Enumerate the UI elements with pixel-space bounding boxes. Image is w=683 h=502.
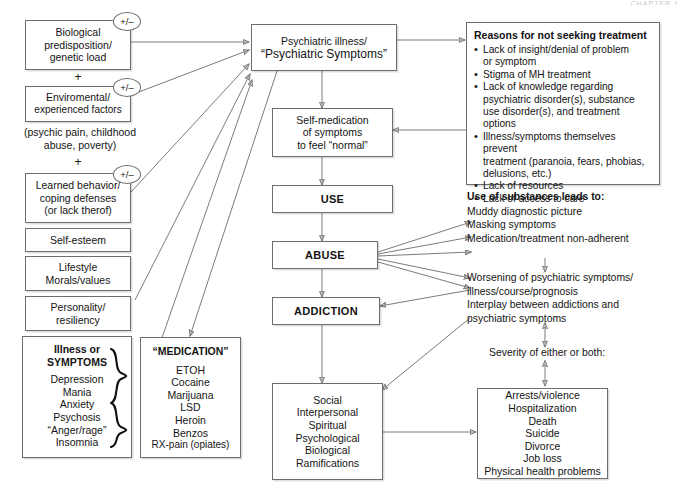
ramification-item: Psychological [295, 432, 359, 445]
substances-heading: Use of substances leads to: [467, 190, 679, 204]
node-line: Morals/values [46, 274, 111, 287]
node-biological-predisposition[interactable]: Biological predisposition/ genetic load [25, 20, 131, 70]
reason-line: psychiatric disorder(s), substance [483, 94, 652, 106]
node-ramifications[interactable]: Social Interpersonal Spiritual Psycholog… [272, 383, 383, 480]
severity-line: Severity of either or both: [489, 346, 679, 360]
node-personality-resiliency[interactable]: Personality/ resiliency [25, 296, 131, 331]
modifier-bubble-environmental: +/– [113, 78, 141, 97]
node-line: “Psychiatric Symptoms” [261, 48, 387, 61]
node-line: Biological [56, 26, 101, 39]
substances-item: Medication/treatment non-adherent [467, 232, 679, 246]
node-line: Self-esteem [50, 234, 106, 247]
node-line: genetic load [50, 51, 107, 64]
substances-item: Masking symptoms [467, 218, 679, 232]
node-line: USE [321, 193, 345, 206]
outcome-item: Suicide [525, 427, 559, 440]
reason-line: Illness/symptoms themselves prevent [483, 131, 615, 154]
medication-item: RX-pain (opiates) [152, 439, 230, 452]
reasons-list: Lack of insight/denial of problem or sym… [474, 44, 652, 205]
node-addiction[interactable]: ADDICTION [272, 297, 380, 325]
symptom-item: Depression [50, 373, 103, 386]
reason-item: Lack of knowledge regarding psychiatric … [474, 81, 652, 131]
worsening-line: illness/course/prognosis [467, 285, 679, 299]
reason-line: or symptom [483, 56, 652, 68]
medication-item: ETOH [176, 364, 205, 377]
symptom-item: “Anger/rage” [48, 424, 107, 437]
reason-item: Illness/symptoms themselves prevent trea… [474, 131, 652, 181]
symptom-item: Psychosis [53, 411, 100, 424]
panel-reasons-not-seeking-treatment[interactable]: Reasons for not seeking treatment Lack o… [466, 22, 660, 185]
symptom-item: Insomnia [56, 436, 99, 449]
node-line: Personality/ [51, 301, 106, 314]
symptoms-title-line: Illness or [54, 343, 100, 356]
node-use[interactable]: USE [272, 185, 393, 213]
ramification-item: Biological [305, 444, 350, 457]
node-medication-substances[interactable]: “MEDICATION” ETOH Cocaine Marijuana LSD … [140, 337, 241, 458]
block-substances-lead-to: Use of substances leads to: Muddy diagno… [467, 190, 679, 245]
node-line: ADDICTION [294, 305, 358, 318]
block-interplay: Interplay between addictions and psychia… [467, 298, 679, 325]
interplay-line: psychiatric symptoms [467, 312, 679, 326]
symptom-item: Anxiety [60, 398, 94, 411]
label-severity: Severity of either or both: [489, 346, 679, 360]
environment-note-line: (psychic pain, childhood [5, 126, 155, 139]
panel-title: Reasons for not seeking treatment [474, 29, 652, 42]
environment-note-line: abuse, poverty) [5, 139, 155, 152]
modifier-bubble-learned-behavior: +/– [113, 165, 141, 184]
worsening-line: Worsening of psychiatric symptoms/ [467, 271, 679, 285]
node-outcomes[interactable]: Arrests/violence Hospitalization Death S… [477, 388, 608, 479]
medication-item: Heroin [175, 414, 206, 427]
medication-title: “MEDICATION” [152, 345, 228, 358]
modifier-bubble-biological: +/– [113, 12, 141, 31]
node-line: (or lack therof) [44, 204, 112, 217]
node-psychiatric-illness[interactable]: Psychiatric illness/ “Psychiatric Sympto… [251, 24, 397, 71]
substances-item: Muddy diagnostic picture [467, 205, 679, 219]
node-line: coping defenses [40, 192, 116, 205]
environment-note: (psychic pain, childhood abuse, poverty) [5, 126, 155, 151]
node-line: Psychiatric illness/ [281, 35, 367, 48]
node-learned-behavior[interactable]: Learned behavior/ coping defenses (or la… [25, 173, 131, 223]
node-line: predisposition/ [44, 39, 112, 52]
symptom-item: Mania [63, 386, 92, 399]
node-line: ABUSE [305, 249, 345, 262]
reason-line: Stigma of MH treatment [483, 69, 591, 80]
outcome-item: Hospitalization [508, 402, 576, 415]
medication-item: LSD [180, 401, 200, 414]
node-line: of symptoms [303, 126, 363, 139]
symptoms-title-line: SYMPTOMS [47, 356, 107, 369]
reason-line: Lack of insight/denial of problem [483, 44, 629, 55]
node-line: Learned behavior/ [36, 179, 121, 192]
ramification-item: Spiritual [309, 419, 347, 432]
outcome-item: Death [528, 415, 556, 428]
reason-line: delusions, etc.) [483, 168, 652, 180]
outcome-item: Physical health problems [484, 465, 601, 478]
node-lifestyle-morals[interactable]: Lifestyle Morals/values [25, 256, 131, 291]
medication-item: Marijuana [167, 389, 213, 402]
node-line: Lifestyle [59, 261, 98, 274]
symptoms-brace [108, 348, 128, 448]
node-self-esteem[interactable]: Self-esteem [25, 228, 131, 252]
interplay-line: Interplay between addictions and [467, 298, 679, 312]
medication-item: Cocaine [171, 376, 210, 389]
plus-separator-2: + [25, 155, 131, 169]
ramification-item: Interpersonal [297, 406, 358, 419]
node-line: experienced factors [34, 104, 121, 117]
page-header-note: CHAPTER 1 [631, 0, 679, 5]
node-line: Self-medication [296, 114, 368, 127]
node-line: to feel “normal” [297, 139, 368, 152]
reason-item: Stigma of MH treatment [474, 69, 652, 81]
diagram-canvas: CHAPTER 1 [0, 0, 683, 502]
reason-line: Lack of knowledge regarding [483, 81, 613, 92]
node-abuse[interactable]: ABUSE [272, 241, 378, 269]
medication-item: Benzos [173, 427, 208, 440]
block-worsening-symptoms: Worsening of psychiatric symptoms/ illne… [467, 271, 679, 298]
outcome-item: Arrests/violence [505, 389, 580, 402]
node-line: resiliency [56, 314, 100, 327]
outcome-item: Job loss [523, 452, 562, 465]
reason-line: treatment (paranoia, fears, phobias, [483, 156, 652, 168]
ramification-item: Social [313, 394, 342, 407]
ramification-item: Ramifications [296, 457, 359, 470]
node-line: Enviromental/ [46, 91, 110, 104]
node-self-medication[interactable]: Self-medication of symptoms to feel “nor… [272, 108, 393, 157]
reason-line: use disorder(s), and treatment options [483, 106, 652, 131]
